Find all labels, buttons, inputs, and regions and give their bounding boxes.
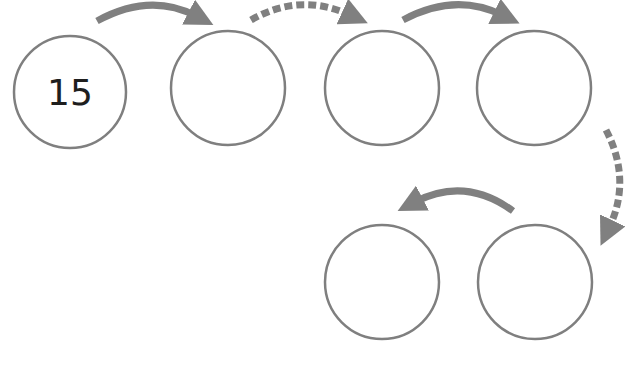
node-5-value bbox=[325, 225, 439, 339]
node-3-value bbox=[325, 31, 439, 145]
arrow-solid-3-to-4 bbox=[403, 5, 502, 20]
node-1-value: 15 bbox=[13, 35, 127, 149]
node-4-value bbox=[477, 31, 591, 145]
arrow-solid-6-to-5 bbox=[415, 191, 513, 211]
arrow-dashed-2-to-3 bbox=[251, 5, 350, 20]
node-2-value bbox=[171, 31, 285, 145]
node-6-value bbox=[478, 225, 592, 339]
arrow-solid-1-to-2 bbox=[97, 5, 196, 21]
arrow-dashed-4-to-6 bbox=[606, 130, 620, 228]
